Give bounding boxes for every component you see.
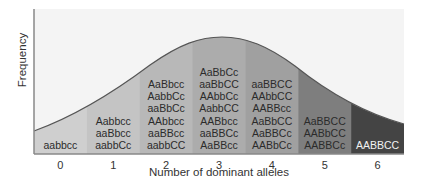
y-axis-label: Frequency [16, 33, 28, 88]
genotype-label: AaBBCC [304, 115, 346, 127]
genotype-label: AaBbCc [200, 66, 239, 78]
genotype-label: AaBbCC [251, 115, 292, 127]
genotype-label: AabbCc [147, 90, 184, 102]
genotype-label: aaBBcc [148, 127, 184, 139]
genotype-label: AABbcc [200, 115, 237, 127]
x-tick-label: 5 [322, 159, 328, 171]
genotype-label: aaBbCC [199, 78, 239, 90]
genotype-label: AABBCC [356, 139, 400, 151]
genotype-label: AABBCc [304, 139, 345, 151]
genotype-label: AABBcc [253, 102, 292, 114]
genotype-label: AaBBcc [200, 139, 237, 151]
genotype-label: aaBBCC [251, 78, 292, 90]
genotype-label: aaBBCc [200, 127, 239, 139]
genotype-label: AabbCC [199, 102, 239, 114]
genotype-label: AABbCc [252, 139, 292, 151]
genotype-label: AAbbcc [148, 115, 184, 127]
genotype-label: aabbCc [95, 139, 131, 151]
x-tick-label: 0 [57, 159, 63, 171]
genotype-label: aaBbcc [96, 127, 131, 139]
polygenic-inheritance-chart: aabbccAabbccaaBbccaabbCcAaBbccAabbCcaaBb… [0, 0, 428, 186]
genotype-label: AaBBCc [252, 127, 292, 139]
genotype-label: aabbcc [43, 139, 77, 151]
x-tick-label: 1 [110, 159, 116, 171]
genotype-label: aabbCC [147, 139, 186, 151]
x-tick-label: 6 [375, 159, 381, 171]
genotype-label: AAbbCC [251, 90, 292, 102]
genotype-label: Aabbcc [96, 115, 131, 127]
genotype-label: AAbbCc [200, 90, 239, 102]
genotype-label: AABbCC [304, 127, 346, 139]
genotype-label: aaBbCc [147, 102, 184, 114]
genotype-label: AaBbcc [148, 78, 184, 90]
x-axis-label: Number of dominant alleles [149, 166, 289, 178]
